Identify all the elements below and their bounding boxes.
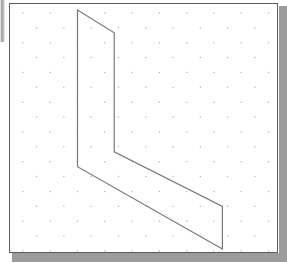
l-shape-outline[interactable]	[10, 4, 277, 252]
shape-outline-path[interactable]	[77, 10, 222, 249]
screenshot-root	[0, 0, 287, 263]
isometric-drawing-canvas[interactable]	[9, 3, 278, 253]
panel-shadow-bottom	[12, 253, 287, 262]
scroll-edge-artifact	[0, 0, 5, 42]
panel-shadow-right	[279, 6, 287, 258]
